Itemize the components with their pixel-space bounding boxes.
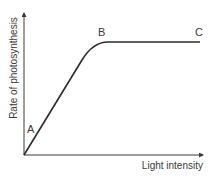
x-axis-label: Light intensity: [142, 160, 203, 171]
photosynthesis-chart: A B C Light intensity Rate of photosynth…: [0, 0, 211, 178]
rate-curve: [24, 42, 200, 155]
y-axis-label: Rate of photosynthesis: [8, 17, 19, 119]
point-a-label: A: [27, 123, 35, 135]
point-b-label: B: [98, 26, 105, 38]
point-c-label: C: [195, 26, 203, 38]
